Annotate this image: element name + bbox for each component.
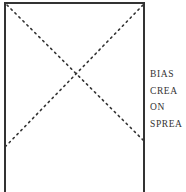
caption-line-3: ON [150, 99, 183, 116]
caption-line-4: SPREA [150, 116, 183, 133]
side-caption: BIAS CREA ON SPREA [150, 66, 183, 133]
caption-line-1: BIAS [150, 66, 183, 83]
diagonal-top-right-to-bottom-left [5, 5, 143, 147]
caption-line-2: CREA [150, 83, 183, 100]
